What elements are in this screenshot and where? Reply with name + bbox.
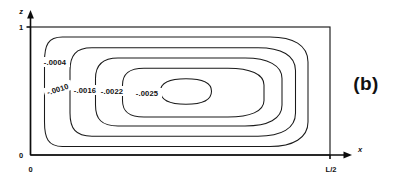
contour-label-1: -.0004 (44, 58, 67, 67)
z-tick-label-1: 1 (19, 23, 23, 32)
z-axis-label: z (18, 7, 23, 16)
contour-line-5 (161, 79, 212, 104)
x-tick-label-l-over-2: L/2 (326, 165, 337, 174)
x-tick-label-0: 0 (28, 165, 32, 174)
contour-plot-svg: z x 1 0 0 L/2 -.0004 -.0010 (0, 0, 394, 181)
contour-plot-figure: z x 1 0 0 L/2 -.0004 -.0010 (0, 0, 394, 181)
contour-label-5: -.0025 (136, 89, 159, 98)
contour-label-2: -.0010 (46, 82, 70, 97)
x-axis-label: x (357, 145, 363, 154)
z-tick-label-0: 0 (19, 151, 23, 160)
z-axis-arrowhead (27, 10, 34, 19)
contour-label-4: -.0022 (101, 87, 123, 96)
panel-label: (b) (353, 73, 378, 94)
contour-label-3: -.0016 (74, 86, 96, 95)
x-axis-arrowhead (344, 152, 353, 159)
